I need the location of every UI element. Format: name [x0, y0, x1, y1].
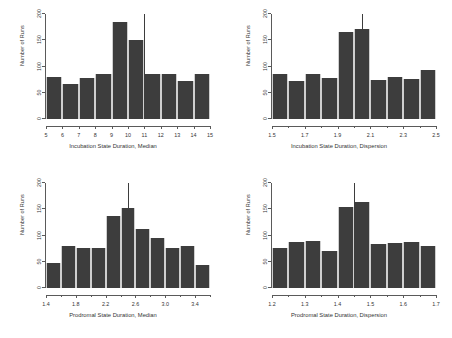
x-axis-minor-tick — [321, 295, 322, 297]
x-axis-tick-label: 8 — [94, 132, 97, 138]
x-axis-tick-label: 7 — [77, 132, 80, 138]
histogram-bar — [321, 78, 337, 119]
y-axis-tick-label: 200 — [263, 178, 268, 187]
x-axis-minor-tick — [420, 126, 421, 128]
x-axis-tick-label: 1.6 — [399, 301, 407, 307]
x-axis-minor-tick — [321, 126, 322, 128]
reference-line — [354, 183, 355, 288]
x-axis-tick — [46, 295, 47, 298]
x-axis-minor-tick — [387, 295, 388, 297]
histogram-bar — [288, 242, 304, 288]
x-axis-tick — [338, 126, 339, 129]
x-axis-tick-label: 1.4 — [334, 301, 342, 307]
histogram-bar — [370, 80, 386, 119]
histogram-bar — [76, 248, 91, 288]
x-axis-tick-label: 1.7 — [301, 132, 309, 138]
x-axis-tick — [95, 126, 96, 129]
bar-series — [272, 14, 436, 119]
histogram-bar — [135, 229, 150, 288]
histogram-bar — [46, 263, 61, 288]
x-axis-tick — [210, 126, 211, 129]
x-axis-tick-label: 1.8 — [72, 301, 80, 307]
plot-area — [272, 14, 436, 119]
y-axis-tick-label: 0 — [37, 286, 42, 289]
x-axis-tick-label: 3.0 — [162, 301, 170, 307]
x-axis-tick — [112, 126, 113, 129]
y-axis-tick-label: 0 — [37, 117, 42, 120]
x-axis-tick — [403, 126, 404, 129]
y-axis-title: Number of Runs — [245, 194, 251, 235]
x-axis-tick-label: 1.4 — [42, 301, 50, 307]
histogram-bar — [180, 246, 195, 288]
x-axis-tick-label: 2.5 — [432, 132, 440, 138]
histogram-bar — [387, 77, 403, 119]
plot-area — [46, 183, 210, 288]
y-axis-tick-label: 100 — [37, 62, 42, 71]
histogram-bar — [194, 74, 210, 119]
bar-series — [46, 14, 210, 119]
x-axis-tick-label: 3.4 — [191, 301, 199, 307]
y-axis-tick-label: 50 — [263, 89, 268, 95]
histogram-bar — [165, 248, 180, 288]
x-axis-minor-tick — [150, 295, 151, 297]
x-axis-minor-tick — [354, 126, 355, 128]
histogram-bar — [177, 81, 193, 119]
x-axis-tick-label: 1.5 — [367, 301, 375, 307]
panel-incubation-median: 050100150200Number of Runs56789101112131… — [0, 0, 226, 169]
y-axis-tick-label: 100 — [37, 231, 42, 240]
histogram-bar — [354, 202, 370, 288]
x-axis-tick-label: 2.6 — [132, 301, 140, 307]
y-axis-tick-label: 150 — [263, 204, 268, 213]
y-axis-tick-label: 50 — [37, 258, 42, 264]
x-axis-minor-tick — [91, 295, 92, 297]
x-axis-tick — [436, 295, 437, 298]
x-axis-tick — [135, 295, 136, 298]
x-axis-tick — [106, 295, 107, 298]
x-axis-tick-label: 9 — [110, 132, 113, 138]
histogram-bar — [403, 242, 419, 288]
y-axis-tick-label: 0 — [263, 117, 268, 120]
reference-line — [362, 14, 363, 119]
x-axis-minor-tick — [210, 295, 211, 297]
y-axis-tick-label: 0 — [263, 286, 268, 289]
x-axis-minor-tick — [387, 126, 388, 128]
y-axis-tick-label: 150 — [263, 35, 268, 44]
y-axis-tick-label: 200 — [37, 9, 42, 18]
histogram-bar — [305, 74, 321, 119]
panel-prodromal-dispersion: 050100150200Number of Runs1.21.31.41.51.… — [226, 169, 452, 338]
x-axis-minor-tick — [121, 295, 122, 297]
x-axis-minor-tick — [180, 295, 181, 297]
y-axis-tick-label: 150 — [37, 35, 42, 44]
histogram-bar — [91, 248, 106, 288]
x-axis-tick — [165, 295, 166, 298]
x-axis-tick — [338, 295, 339, 298]
x-axis-tick-label: 1.3 — [301, 301, 309, 307]
y-axis-title: Number of Runs — [19, 25, 25, 66]
x-axis-tick — [272, 126, 273, 129]
x-axis-tick — [272, 295, 273, 298]
x-axis-tick — [436, 126, 437, 129]
x-axis-tick — [403, 295, 404, 298]
histogram-bar — [62, 84, 78, 119]
histogram-bar — [95, 74, 111, 119]
histogram-bar — [321, 251, 337, 288]
x-axis-minor-tick — [420, 295, 421, 297]
x-axis-tick — [305, 126, 306, 129]
y-axis-tick-label: 200 — [263, 9, 268, 18]
x-axis-tick-label: 15 — [207, 132, 213, 138]
histogram-bar — [61, 246, 76, 288]
x-axis-tick-label: 1.2 — [268, 301, 276, 307]
x-axis-minor-tick — [288, 126, 289, 128]
x-axis-tick-label: 2.1 — [367, 132, 375, 138]
x-axis-tick — [194, 126, 195, 129]
y-axis-tick-label: 150 — [37, 204, 42, 213]
x-axis-tick-label: 14 — [191, 132, 197, 138]
histogram-bar — [420, 70, 436, 119]
histogram-panel-figure: 050100150200Number of Runs56789101112131… — [0, 0, 452, 338]
x-axis-tick-label: 1.9 — [334, 132, 342, 138]
y-axis-tick-label: 100 — [263, 231, 268, 240]
x-axis-tick — [79, 126, 80, 129]
histogram-bar — [79, 78, 95, 119]
x-axis: 1.21.31.41.51.61.7 — [272, 295, 436, 296]
x-axis-tick-label: 13 — [174, 132, 180, 138]
